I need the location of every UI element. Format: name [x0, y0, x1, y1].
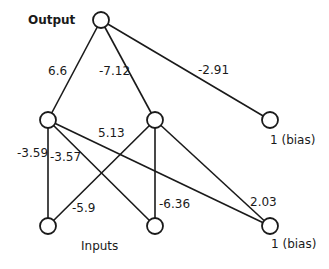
- bias-bottom-label: 1 (bias): [271, 237, 316, 251]
- output-label: Output: [28, 13, 75, 27]
- weight-hidden2-input2: -6.36: [159, 197, 190, 211]
- node-hidden1: [40, 112, 56, 128]
- weight-hidden1-input2: -3.57: [50, 150, 81, 164]
- bias-top-label: 1 (bias): [270, 133, 315, 147]
- node-input2: [147, 218, 163, 234]
- weight-hidden2-input1: -5.9: [72, 201, 95, 215]
- node-input1: [40, 218, 56, 234]
- node-bias-top: [262, 112, 278, 128]
- weight-hidden2-bias-bottom: 2.03: [250, 195, 277, 209]
- weight-hidden1-bias-bottom: 5.13: [98, 126, 125, 140]
- node-hidden2: [147, 112, 163, 128]
- weight-output-hidden1: 6.6: [48, 64, 67, 78]
- weight-output-hidden2: -7.12: [99, 64, 130, 78]
- weight-hidden1-input1: -3.59: [17, 146, 48, 160]
- node-output: [93, 12, 109, 28]
- weight-output-bias-top: -2.91: [198, 63, 229, 77]
- inputs-label: Inputs: [81, 239, 118, 253]
- node-bias-bottom: [262, 218, 278, 234]
